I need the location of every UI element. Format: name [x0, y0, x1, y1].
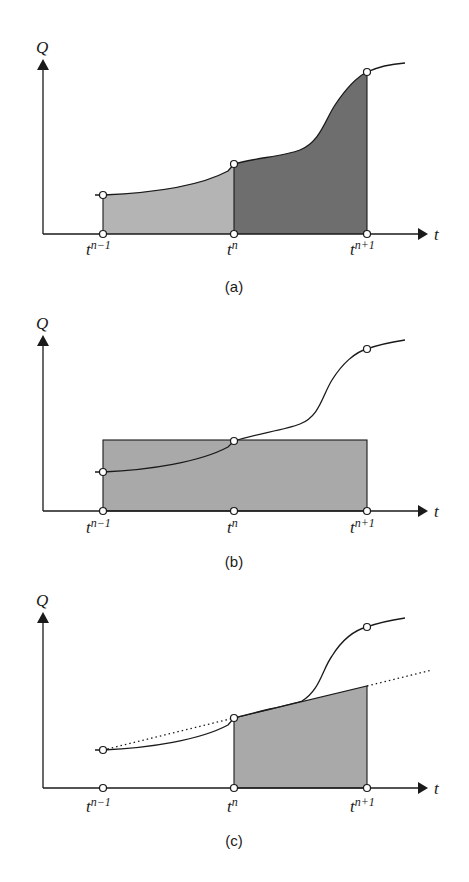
axis-point-tn	[231, 231, 238, 238]
axis-point-tn-1	[100, 508, 107, 515]
tick-label-tn-1: tn−1	[86, 238, 111, 259]
tick-label-tn-1: tn−1	[86, 516, 111, 537]
axis-point-tn+1	[364, 508, 371, 515]
curve-point-tn+1	[364, 346, 371, 353]
panel-b: Q t tn−1 tn tn+1 (b)	[0, 300, 469, 570]
caption-a: (a)	[225, 278, 243, 295]
curve-point-tn+1	[364, 624, 371, 631]
t-axis-arrow-icon	[418, 782, 428, 794]
caption-b: (b)	[225, 553, 243, 570]
curve-point-tn-1	[100, 469, 107, 476]
panel-a: Q t tn−1 tn tn+1 (a)	[0, 0, 469, 300]
panel-c: Q t tn−1 tn tn+1 (c)	[0, 570, 469, 882]
tick-label-tn+1: tn+1	[350, 795, 375, 816]
q-axis-arrow-icon	[37, 612, 49, 623]
curve-point-tn	[231, 161, 238, 168]
axis-point-tn+1	[364, 785, 371, 792]
light-area-region	[103, 164, 234, 234]
curve-point-tn+1	[364, 69, 371, 76]
t-axis-label: t	[434, 502, 440, 521]
curve-point-tn	[231, 438, 238, 445]
panel-a-svg: Q t tn−1 tn tn+1 (a)	[0, 0, 469, 300]
tick-label-tn: tn	[227, 795, 238, 816]
tick-label-tn-1: tn−1	[86, 795, 111, 816]
t-axis-arrow-icon	[418, 505, 428, 517]
axis-point-tn	[231, 785, 238, 792]
extrapolation-line-right	[367, 670, 432, 686]
curve-point-tn	[231, 715, 238, 722]
t-axis-label: t	[434, 225, 440, 244]
tick-label-tn: tn	[227, 516, 238, 537]
q-axis-label: Q	[36, 38, 48, 57]
t-axis-label: t	[434, 779, 440, 798]
tick-label-tn+1: tn+1	[350, 238, 375, 259]
axis-point-tn-1	[100, 785, 107, 792]
panel-c-svg: Q t tn−1 tn tn+1 (c)	[0, 570, 469, 882]
curve-point-tn-1	[100, 747, 107, 754]
q-axis-label: Q	[36, 591, 48, 610]
q-axis-arrow-icon	[37, 59, 49, 70]
curve-point-tn-1	[100, 192, 107, 199]
q-axis-label: Q	[36, 314, 48, 333]
q-axis-arrow-icon	[37, 335, 49, 346]
midpoint-rectangle	[103, 440, 367, 511]
t-axis-arrow-icon	[418, 228, 428, 240]
axis-point-tn-1	[100, 231, 107, 238]
tick-label-tn+1: tn+1	[350, 516, 375, 537]
panel-b-svg: Q t tn−1 tn tn+1 (b)	[0, 300, 469, 570]
tick-label-tn: tn	[227, 238, 238, 259]
caption-c: (c)	[225, 832, 243, 849]
extrapolation-line-left	[103, 718, 234, 750]
axis-point-tn+1	[364, 231, 371, 238]
dark-area-region	[234, 72, 367, 234]
axis-point-tn	[231, 508, 238, 515]
